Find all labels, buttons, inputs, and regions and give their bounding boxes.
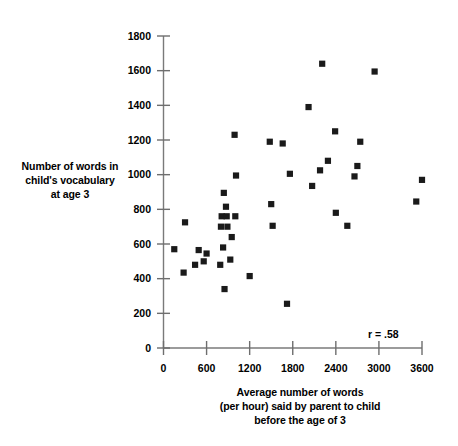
data-point-marker (220, 244, 226, 250)
data-point-marker (221, 190, 227, 196)
data-point-marker (182, 219, 188, 225)
data-point-marker (181, 270, 187, 276)
data-point-marker (419, 177, 425, 183)
data-point-marker (332, 128, 338, 134)
data-point-marker (325, 158, 331, 164)
data-point-marker (270, 223, 276, 229)
y-tick-label: 1600 (128, 64, 152, 76)
data-point-marker (268, 201, 274, 207)
axes-group (164, 36, 423, 348)
data-point-marker (218, 224, 224, 230)
x-axis-label-line-2: (per hour) said by parent to child (150, 400, 450, 414)
data-point-marker (203, 250, 209, 256)
plot-canvas: 020040060080010001200140016001800 060012… (0, 0, 458, 446)
data-point-marker (232, 213, 238, 219)
data-point-marker (319, 61, 325, 67)
data-point-marker (309, 183, 315, 189)
data-point-marker (344, 223, 350, 229)
x-axis-label: Average number of words (per hour) said … (150, 386, 450, 428)
x-tick-label: 600 (198, 362, 216, 374)
data-point-marker (217, 262, 223, 268)
data-point-marker (192, 262, 198, 268)
data-point-marker (267, 139, 273, 145)
y-tick-label: 800 (133, 203, 151, 215)
data-point-marker (229, 234, 235, 240)
x-tick-label: 3600 (410, 362, 434, 374)
y-tick-label: 1400 (128, 99, 152, 111)
data-point-marker (413, 198, 419, 204)
x-tick-label: 1200 (238, 362, 262, 374)
x-tick-label: 0 (161, 362, 167, 374)
x-tick-label: 2400 (324, 362, 348, 374)
x-ticks-group: 060012001800240030003600 (161, 341, 434, 374)
correlation-annotation: r = .58 (368, 328, 399, 340)
data-point-marker (317, 167, 323, 173)
data-point-marker (247, 273, 253, 279)
data-point-marker (280, 140, 286, 146)
y-tick-label: 0 (145, 342, 151, 354)
data-point-marker (224, 224, 230, 230)
data-point-marker (196, 247, 202, 253)
y-tick-label: 400 (133, 272, 151, 284)
data-point-marker (372, 68, 378, 74)
data-point-marker (351, 173, 357, 179)
data-point-marker (333, 210, 339, 216)
data-point-marker (231, 132, 237, 138)
data-point-marker (201, 258, 207, 264)
y-tick-label: 1800 (128, 30, 152, 42)
x-axis-label-line-1: Average number of words (150, 386, 450, 400)
data-point-marker (223, 204, 229, 210)
data-point-marker (233, 172, 239, 178)
y-tick-label: 200 (133, 307, 151, 319)
data-point-marker (224, 213, 230, 219)
x-tick-label: 3000 (367, 362, 391, 374)
y-tick-label: 1000 (128, 168, 152, 180)
x-tick-label: 1800 (281, 362, 305, 374)
data-point-marker (171, 246, 177, 252)
data-point-marker (284, 301, 290, 307)
y-tick-label: 600 (133, 238, 151, 250)
data-point-marker (305, 104, 311, 110)
data-points-group (171, 61, 425, 307)
data-point-marker (227, 257, 233, 263)
data-point-marker (357, 139, 363, 145)
x-axis-label-line-3: before the age of 3 (150, 414, 450, 428)
y-tick-label: 1200 (128, 134, 152, 146)
scatter-plot-figure: Number of words in child's vocabulary at… (0, 0, 458, 446)
data-point-marker (287, 171, 293, 177)
data-point-marker (221, 286, 227, 292)
data-point-marker (354, 163, 360, 169)
